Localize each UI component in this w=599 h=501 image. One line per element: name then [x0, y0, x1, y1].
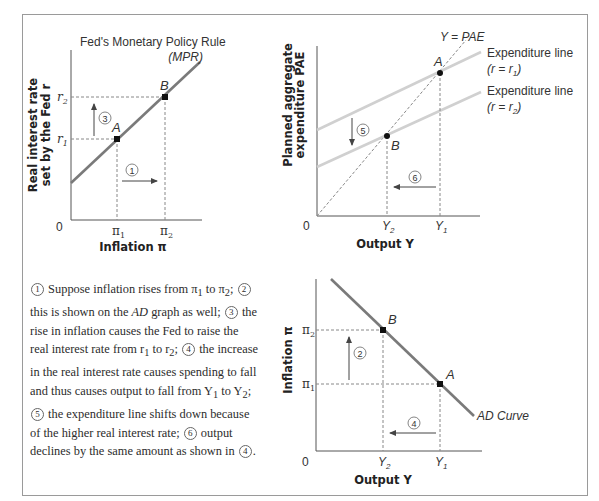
svg-text:5: 5	[360, 126, 365, 136]
exp-line-2-cond: (r = r2)	[487, 100, 521, 116]
origin-label: 0	[56, 220, 63, 234]
point-a	[437, 381, 443, 387]
step-badge: 4	[239, 445, 252, 458]
tick-pi1: π1	[112, 224, 125, 240]
svg-text:1: 1	[129, 166, 134, 176]
y-axis-label-2: set by the Fed r	[39, 83, 53, 186]
explanation-caption: 1 Suppose inflation rises from π1 to π2;…	[30, 280, 260, 461]
svg-text:2: 2	[357, 349, 362, 359]
origin-label: 0	[302, 455, 309, 469]
expenditure-chart: A B Y = PAE Expenditure line (r = r1) Ex…	[281, 30, 573, 251]
y-equals-pae-line	[317, 40, 466, 216]
point-a	[114, 136, 120, 142]
step-badge: 2	[238, 283, 251, 296]
label-b: B	[388, 312, 397, 327]
svg-text:4: 4	[411, 419, 416, 429]
ad-curve	[331, 279, 474, 416]
label-a: A	[111, 120, 121, 135]
x-axis-label: Output Y	[356, 237, 414, 251]
label-b: B	[391, 138, 400, 153]
y-axis-label-1: Real interest rate	[26, 78, 40, 193]
exp-line-1-label: Expenditure line	[487, 46, 573, 60]
y-axis-label-2: expenditure PAE	[293, 51, 307, 158]
label-a: A	[445, 367, 455, 382]
step-badge: 4	[182, 343, 195, 356]
exp-line-1-cond: (r = r1)	[487, 62, 521, 78]
svg-text:3: 3	[102, 114, 107, 124]
x-axis-label: Output Y	[354, 473, 412, 487]
step-badge: 3	[225, 306, 238, 319]
tick-pi1: π1	[302, 377, 315, 393]
svg-text:6: 6	[412, 173, 417, 183]
point-a	[437, 70, 443, 76]
point-b	[162, 94, 168, 100]
tick-y1: Y1	[435, 455, 447, 471]
label-b: B	[160, 78, 169, 93]
x-axis-label: Inflation π	[99, 240, 166, 254]
expenditure-line-r2	[317, 92, 481, 167]
step-badge: 5	[31, 408, 44, 421]
tick-pi2: π2	[160, 224, 173, 240]
tick-y2: Y2	[378, 455, 391, 471]
expenditure-line-r1	[317, 52, 481, 130]
label-a: A	[433, 54, 443, 69]
tick-r1: r1	[57, 132, 68, 148]
point-b	[380, 327, 386, 333]
step-badge: 6	[184, 427, 197, 440]
tick-r2: r2	[57, 90, 68, 106]
exp-line-2-label: Expenditure line	[487, 84, 573, 98]
ad-chart: B A AD Curve π2 π1 Y2 Y1 0 Output Y Infl…	[281, 279, 529, 487]
step-badge: 1	[31, 283, 44, 296]
mpr-abbrev: (MPR)	[168, 50, 203, 64]
tick-pi2: π2	[302, 323, 315, 339]
origin-label: 0	[303, 219, 310, 233]
y-axis-label: Inflation π	[281, 326, 295, 393]
y-pae-label: Y = PAE	[440, 30, 486, 44]
ad-curve-label: AD Curve	[476, 409, 529, 423]
tick-y2: Y2	[382, 219, 395, 235]
mpr-chart: A B Fed's Monetary Policy Rule (MPR) r2 …	[26, 35, 226, 254]
mpr-title: Fed's Monetary Policy Rule	[80, 35, 226, 49]
point-b	[384, 133, 390, 139]
tick-y1: Y1	[435, 219, 447, 235]
